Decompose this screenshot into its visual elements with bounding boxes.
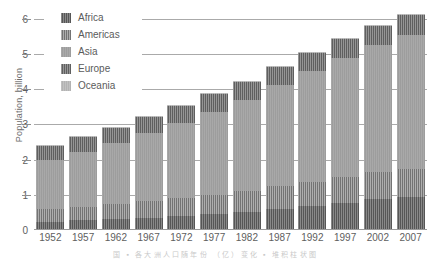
bar-segment-oceania[interactable] (233, 81, 261, 82)
bar-segment-oceania[interactable] (69, 136, 97, 137)
x-axis-tick-label: 1957 (72, 232, 94, 243)
bar-segment-oceania[interactable] (298, 52, 326, 53)
bar-segment-europe[interactable] (167, 105, 195, 123)
bar-stack[interactable] (331, 8, 359, 230)
chart-legend: AfricaAmericasAsiaEuropeOceania (61, 10, 120, 95)
bar-segment-europe[interactable] (36, 145, 64, 160)
bar-segment-africa[interactable] (397, 197, 425, 230)
bar-segment-americas[interactable] (266, 186, 294, 209)
bar-segment-asia[interactable] (167, 123, 195, 198)
legend-label: Americas (78, 30, 120, 40)
bar-segment-asia[interactable] (36, 160, 64, 209)
bar-stack[interactable] (167, 8, 195, 230)
legend-item-americas[interactable]: Americas (61, 27, 120, 43)
x-axis-ticks: 1952195719621967197219771982198719921997… (34, 232, 427, 246)
bar-segment-oceania[interactable] (102, 127, 130, 128)
bar-stack[interactable] (135, 8, 163, 230)
bar-segment-africa[interactable] (331, 203, 359, 230)
bar-segment-europe[interactable] (135, 116, 163, 133)
bar-segment-europe[interactable] (331, 39, 359, 58)
bar-segment-oceania[interactable] (364, 25, 392, 26)
bar-segment-europe[interactable] (233, 81, 261, 99)
x-axis-tick-label: 2002 (367, 232, 389, 243)
bar-segment-americas[interactable] (298, 182, 326, 206)
bar-segment-europe[interactable] (266, 66, 294, 85)
bar-stack[interactable] (298, 8, 326, 230)
bar-segment-asia[interactable] (233, 100, 261, 191)
bar-segment-americas[interactable] (36, 209, 64, 221)
y-axis-tick-mark (22, 160, 31, 161)
bar-segment-africa[interactable] (200, 214, 228, 230)
bar-stack[interactable] (397, 8, 425, 230)
bar-segment-asia[interactable] (364, 45, 392, 172)
bar-segment-americas[interactable] (331, 177, 359, 203)
x-axis-tick-label: 1967 (138, 232, 160, 243)
bar-segment-asia[interactable] (397, 35, 425, 169)
legend-item-asia[interactable]: Asia (61, 44, 120, 60)
legend-swatch-icon (61, 30, 71, 40)
legend-swatch-icon (61, 64, 71, 74)
bar-segment-americas[interactable] (135, 201, 163, 218)
bar-segment-asia[interactable] (69, 152, 97, 207)
bar-segment-americas[interactable] (167, 198, 195, 216)
bar-segment-americas[interactable] (364, 172, 392, 199)
legend-label: Oceania (78, 81, 115, 91)
bar-stack[interactable] (200, 8, 228, 230)
x-axis-tick-label: 1952 (39, 232, 61, 243)
figure-caption: 国 ▪ 各大洲人口随年份 （亿）变化 ▪ 堆积柱状图 (0, 249, 431, 259)
y-axis-tick-mark (22, 89, 31, 90)
x-axis-tick-label: 1977 (203, 232, 225, 243)
x-axis-tick-label: 1992 (301, 232, 323, 243)
bar-segment-africa[interactable] (298, 206, 326, 230)
chart-figure: Population, billion 1234560 AfricaAmeric… (0, 0, 431, 259)
bar-segment-asia[interactable] (102, 143, 130, 204)
plot-area: 1234560 AfricaAmericasAsiaEuropeOceania (34, 8, 427, 230)
bar-segment-europe[interactable] (102, 127, 130, 143)
bar-segment-oceania[interactable] (200, 93, 228, 94)
bar-segment-oceania[interactable] (135, 116, 163, 117)
bar-segment-europe[interactable] (364, 26, 392, 45)
x-axis-tick-label: 1987 (269, 232, 291, 243)
bar-segment-asia[interactable] (266, 85, 294, 186)
x-axis-tick-label: 1997 (334, 232, 356, 243)
bar-segment-africa[interactable] (364, 199, 392, 230)
bar-stack[interactable] (233, 8, 261, 230)
bar-segment-americas[interactable] (397, 169, 425, 197)
bar-segment-oceania[interactable] (397, 14, 425, 15)
bar-segment-americas[interactable] (69, 207, 97, 221)
x-axis-tick-label: 2007 (400, 232, 422, 243)
bar-segment-asia[interactable] (298, 71, 326, 181)
legend-item-europe[interactable]: Europe (61, 61, 120, 77)
bar-stack[interactable] (266, 8, 294, 230)
bar-segment-oceania[interactable] (331, 38, 359, 39)
y-axis-tick-mark (22, 124, 31, 125)
bar-segment-oceania[interactable] (167, 105, 195, 106)
bar-segment-africa[interactable] (167, 216, 195, 230)
legend-item-africa[interactable]: Africa (61, 10, 120, 26)
bar-segment-americas[interactable] (102, 204, 130, 219)
bar-segment-europe[interactable] (298, 52, 326, 71)
bar-segment-oceania[interactable] (266, 66, 294, 67)
y-axis-tick-label: 0 (22, 225, 28, 236)
bar-segment-asia[interactable] (200, 112, 228, 195)
x-axis-tick-label: 1982 (236, 232, 258, 243)
bar-segment-europe[interactable] (69, 137, 97, 153)
x-axis-tick-label: 1972 (170, 232, 192, 243)
bar-segment-americas[interactable] (200, 195, 228, 214)
legend-item-oceania[interactable]: Oceania (61, 78, 120, 94)
bar-segment-asia[interactable] (135, 133, 163, 201)
legend-swatch-icon (61, 13, 71, 23)
bar-stack[interactable] (364, 8, 392, 230)
bar-segment-europe[interactable] (200, 94, 228, 112)
bar-segment-africa[interactable] (233, 212, 261, 230)
bar-segment-oceania[interactable] (36, 145, 64, 146)
axis-baseline (34, 229, 427, 230)
bar-segment-europe[interactable] (397, 15, 425, 34)
legend-label: Europe (78, 64, 110, 74)
legend-swatch-icon (61, 81, 71, 91)
legend-label: Asia (78, 47, 97, 57)
bar-segment-americas[interactable] (233, 191, 261, 212)
bar-segment-asia[interactable] (331, 58, 359, 177)
y-axis-tick-mark (22, 195, 31, 196)
bar-segment-africa[interactable] (266, 209, 294, 230)
